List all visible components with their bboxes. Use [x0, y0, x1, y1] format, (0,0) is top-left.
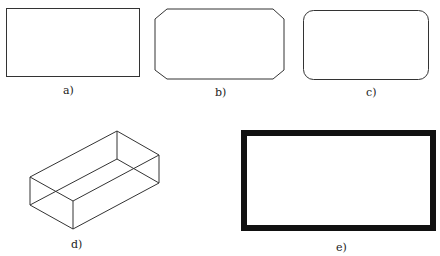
label-b: b) — [215, 86, 226, 99]
rounded-rectangle-c — [304, 11, 429, 80]
label-a: a) — [63, 84, 74, 97]
thick-rectangle-e — [244, 133, 433, 228]
label-e: e) — [336, 241, 347, 254]
rectangle-a — [7, 9, 140, 77]
figure-canvas — [0, 0, 440, 256]
label-c: c) — [366, 86, 376, 99]
chamfered-rectangle-b — [155, 9, 284, 79]
wireframe-box-d — [30, 131, 159, 229]
label-d: d) — [71, 238, 82, 251]
